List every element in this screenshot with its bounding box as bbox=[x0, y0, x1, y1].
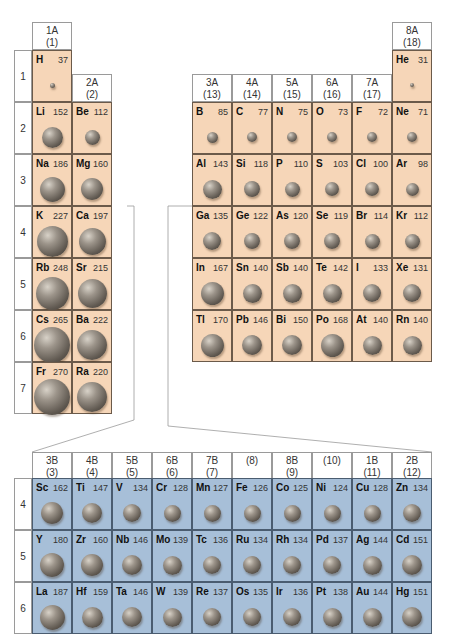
atomic-radius: 112 bbox=[414, 211, 428, 221]
element-cell: Os135 bbox=[232, 582, 272, 634]
element-cell: Br114 bbox=[352, 206, 392, 258]
atom-sphere-icon bbox=[243, 608, 261, 626]
group-header-2a: 2A(2) bbox=[72, 74, 112, 102]
element-symbol: N bbox=[276, 106, 283, 117]
element-symbol: Zn bbox=[396, 482, 408, 493]
element-symbol: Rn bbox=[396, 314, 409, 325]
element-symbol: Nb bbox=[116, 534, 129, 545]
element-symbol: Mn bbox=[196, 482, 210, 493]
element-symbol: Ra bbox=[76, 366, 89, 377]
element-cell: Ru134 bbox=[232, 530, 272, 582]
atom-sphere-icon bbox=[34, 379, 70, 415]
group-label: 8B bbox=[273, 455, 311, 467]
group-header-8b-10: (10) bbox=[312, 452, 352, 479]
atomic-radius: 131 bbox=[413, 263, 428, 273]
element-cell: Cs265 bbox=[32, 310, 72, 362]
group-label: 3B bbox=[33, 455, 71, 467]
element-cell: Li152 bbox=[32, 102, 72, 154]
element-symbol: Br bbox=[356, 210, 367, 221]
element-cell: Ga135 bbox=[192, 206, 232, 258]
atomic-radius: 135 bbox=[213, 211, 228, 221]
element-symbol: Se bbox=[316, 210, 328, 221]
element-cell: F72 bbox=[352, 102, 392, 154]
atom-sphere-icon bbox=[405, 234, 420, 249]
period-number: 6 bbox=[20, 331, 26, 342]
atom-sphere-icon bbox=[363, 336, 382, 355]
atomic-radius: 136 bbox=[293, 587, 308, 597]
element-cell: Ne71 bbox=[392, 102, 432, 154]
element-symbol: Cl bbox=[356, 158, 366, 169]
element-cell: Sc162 bbox=[32, 478, 72, 530]
element-cell: Ge122 bbox=[232, 206, 272, 258]
element-symbol: Ge bbox=[236, 210, 249, 221]
atom-sphere-icon bbox=[365, 234, 380, 249]
element-symbol: Fr bbox=[36, 366, 46, 377]
atom-sphere-icon bbox=[203, 180, 222, 199]
atom-sphere-icon bbox=[323, 556, 341, 574]
atomic-radius: 124 bbox=[333, 483, 348, 493]
element-cell: Pd137 bbox=[312, 530, 352, 582]
atomic-radius: 114 bbox=[374, 211, 388, 221]
period-label: 5 bbox=[14, 258, 32, 310]
group-label: 7B bbox=[193, 455, 231, 467]
atomic-radius: 139 bbox=[173, 587, 188, 597]
atom-sphere-icon bbox=[204, 505, 221, 522]
atomic-radius: 125 bbox=[293, 483, 308, 493]
group-label: 1A bbox=[33, 25, 71, 37]
atom-sphere-icon bbox=[201, 334, 224, 357]
atomic-radius: 73 bbox=[338, 107, 348, 117]
atom-sphere-icon bbox=[407, 132, 417, 142]
element-cell: S103 bbox=[312, 154, 352, 206]
element-symbol: Mg bbox=[76, 158, 90, 169]
atomic-radius: 150 bbox=[293, 315, 308, 325]
atom-sphere-icon bbox=[41, 502, 63, 524]
atom-sphere-icon bbox=[201, 282, 224, 305]
element-symbol: Os bbox=[236, 586, 249, 597]
atom-sphere-icon bbox=[325, 182, 339, 196]
atomic-radius: 147 bbox=[93, 483, 108, 493]
element-symbol: Sn bbox=[236, 262, 249, 273]
atomic-radius: 140 bbox=[413, 315, 428, 325]
group-number: (17) bbox=[353, 89, 391, 101]
element-cell: H37 bbox=[32, 50, 72, 102]
atomic-radius: 146 bbox=[133, 587, 148, 597]
atom-sphere-icon bbox=[207, 132, 218, 143]
atomic-radius: 136 bbox=[213, 535, 228, 545]
atomic-radius: 167 bbox=[213, 263, 228, 273]
element-cell: He31 bbox=[392, 50, 432, 102]
element-symbol: Co bbox=[276, 482, 289, 493]
element-symbol: Pt bbox=[316, 586, 326, 597]
atom-sphere-icon bbox=[203, 556, 221, 574]
group-header-4a: 4A(14) bbox=[232, 74, 272, 102]
element-cell: Ir136 bbox=[272, 582, 312, 634]
atomic-radius: 137 bbox=[213, 587, 228, 597]
period-label: 7 bbox=[14, 362, 32, 414]
element-cell: Mo139 bbox=[152, 530, 192, 582]
element-cell: Na186 bbox=[32, 154, 72, 206]
group-header-2b: 2B(12) bbox=[392, 452, 432, 479]
element-symbol: As bbox=[276, 210, 289, 221]
element-symbol: Be bbox=[76, 106, 89, 117]
atom-sphere-icon bbox=[42, 127, 63, 148]
atom-sphere-icon bbox=[85, 130, 100, 145]
element-symbol: Al bbox=[196, 158, 206, 169]
element-cell: Fe126 bbox=[232, 478, 272, 530]
element-symbol: Po bbox=[316, 314, 329, 325]
period-number: 4 bbox=[20, 499, 26, 510]
element-symbol: Ti bbox=[76, 482, 85, 493]
atom-sphere-icon bbox=[244, 181, 260, 197]
element-cell: Sr215 bbox=[72, 258, 112, 310]
atom-sphere-icon bbox=[81, 178, 103, 200]
element-cell: Zr160 bbox=[72, 530, 112, 582]
period-label: 6 bbox=[14, 582, 32, 634]
element-cell: Y180 bbox=[32, 530, 72, 582]
atom-sphere-icon bbox=[247, 132, 257, 142]
group-label: 2B bbox=[393, 455, 431, 467]
element-symbol: Rh bbox=[276, 534, 289, 545]
atomic-radius: 128 bbox=[373, 483, 388, 493]
element-cell: Tc136 bbox=[192, 530, 232, 582]
group-header-8a: 8A(18) bbox=[392, 22, 432, 50]
group-header-7b: 7B(7) bbox=[192, 452, 232, 479]
group-header-1b: 1B(11) bbox=[352, 452, 392, 479]
element-cell: Sn140 bbox=[232, 258, 272, 310]
